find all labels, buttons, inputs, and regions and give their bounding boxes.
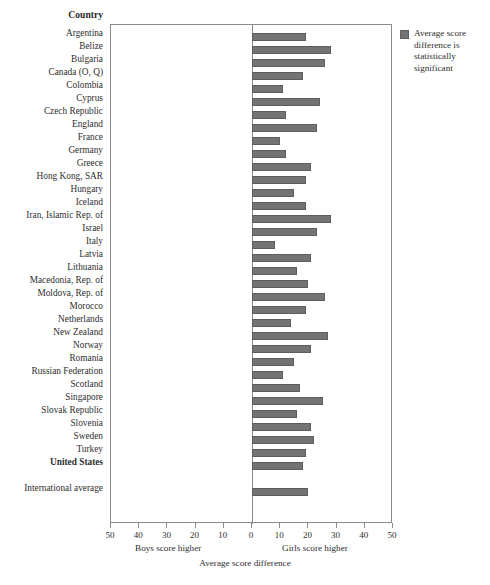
country-label: Singapore bbox=[65, 393, 103, 402]
bar bbox=[252, 72, 303, 81]
legend-swatch-significant bbox=[400, 30, 409, 39]
country-label: Macedonia, Rep. of bbox=[30, 276, 103, 285]
bar bbox=[252, 124, 317, 133]
boys-score-higher-caption: Boys score higher bbox=[135, 543, 201, 553]
bar bbox=[252, 410, 297, 419]
bar bbox=[252, 85, 283, 94]
x-axis-tick bbox=[336, 523, 337, 528]
x-axis-title: Average score difference bbox=[0, 558, 490, 568]
country-label: Iran, Islamic Rep. of bbox=[26, 211, 103, 220]
country-column-header: Country bbox=[68, 10, 103, 20]
x-axis-tick-label: 50 bbox=[98, 530, 122, 540]
bar bbox=[252, 488, 308, 497]
country-label: Canada (O, Q) bbox=[49, 68, 103, 77]
country-label: Hungary bbox=[70, 185, 103, 194]
country-label: United States bbox=[50, 458, 103, 467]
x-axis-tick-label: 30 bbox=[324, 530, 348, 540]
country-label: International average bbox=[24, 484, 103, 493]
x-axis-tick-label: 40 bbox=[126, 530, 150, 540]
country-label: Sweden bbox=[74, 432, 103, 441]
bar bbox=[252, 59, 325, 68]
x-axis-tick-label: 30 bbox=[154, 530, 178, 540]
country-label: Turkey bbox=[76, 445, 103, 454]
x-axis-tick bbox=[251, 523, 252, 528]
bar bbox=[252, 423, 311, 432]
country-label: Argentina bbox=[66, 29, 103, 38]
plot-area bbox=[110, 24, 392, 523]
bar bbox=[252, 215, 331, 224]
x-axis-tick-label: 10 bbox=[267, 530, 291, 540]
bar bbox=[252, 241, 275, 250]
country-label: Greece bbox=[77, 159, 103, 168]
x-axis-tick-label: 40 bbox=[352, 530, 376, 540]
country-label: Hong Kong, SAR bbox=[37, 172, 103, 181]
bar bbox=[252, 163, 311, 172]
x-axis-tick bbox=[279, 523, 280, 528]
x-axis-tick bbox=[392, 523, 393, 528]
chart-root: Country ArgentinaBelizeBulgariaCanada (O… bbox=[0, 0, 490, 585]
x-axis-tick-label: 0 bbox=[239, 530, 263, 540]
bar bbox=[252, 202, 306, 211]
bar bbox=[252, 176, 306, 185]
country-label: Moldova, Rep. of bbox=[37, 289, 103, 298]
country-label: New Zealand bbox=[53, 328, 103, 337]
bar bbox=[252, 358, 294, 367]
x-axis-tick bbox=[364, 523, 365, 528]
bar bbox=[252, 397, 323, 406]
bar bbox=[252, 46, 331, 55]
country-label: Iceland bbox=[76, 198, 103, 207]
country-label: Netherlands bbox=[58, 315, 103, 324]
girls-score-higher-caption: Girls score higher bbox=[282, 543, 348, 553]
bar bbox=[252, 306, 306, 315]
country-label: Slovak Republic bbox=[41, 406, 103, 415]
bar bbox=[252, 371, 283, 380]
legend-label-significant: Average score difference is statisticall… bbox=[414, 28, 488, 74]
x-axis-tick-label: 20 bbox=[295, 530, 319, 540]
bar bbox=[252, 345, 311, 354]
x-axis-tick-label: 50 bbox=[380, 530, 404, 540]
country-label: Israel bbox=[82, 224, 103, 233]
bar bbox=[252, 189, 294, 198]
bar bbox=[252, 150, 286, 159]
country-label: Norway bbox=[73, 341, 103, 350]
bar bbox=[252, 449, 306, 458]
x-axis-tick bbox=[307, 523, 308, 528]
country-label: Czech Republic bbox=[44, 107, 103, 116]
bar bbox=[252, 98, 320, 107]
country-label: Lithuania bbox=[67, 263, 103, 272]
bar bbox=[252, 267, 297, 276]
country-label: Italy bbox=[86, 237, 103, 246]
x-axis-tick bbox=[195, 523, 196, 528]
x-axis-tick bbox=[110, 523, 111, 528]
bar bbox=[252, 293, 325, 302]
country-label: Russian Federation bbox=[31, 367, 103, 376]
country-label: England bbox=[72, 120, 103, 129]
x-axis-tick-label: 10 bbox=[211, 530, 235, 540]
country-label: Belize bbox=[79, 42, 103, 51]
country-label: Colombia bbox=[66, 81, 103, 90]
bar bbox=[252, 228, 317, 237]
x-axis-tick-label: 20 bbox=[183, 530, 207, 540]
country-label: France bbox=[78, 133, 103, 142]
bar bbox=[252, 254, 311, 263]
bar bbox=[252, 33, 306, 42]
bar bbox=[252, 462, 303, 471]
country-label: Slovenia bbox=[70, 419, 103, 428]
country-label: Bulgaria bbox=[71, 55, 103, 64]
x-axis-tick bbox=[166, 523, 167, 528]
country-label: Scotland bbox=[70, 380, 103, 389]
x-axis-tick bbox=[138, 523, 139, 528]
bar bbox=[252, 111, 286, 120]
x-axis-tick bbox=[223, 523, 224, 528]
bar bbox=[252, 319, 291, 328]
country-label: Germany bbox=[68, 146, 103, 155]
bar bbox=[252, 332, 328, 341]
bar bbox=[252, 280, 308, 289]
country-label: Latvia bbox=[79, 250, 103, 259]
country-label: Romania bbox=[69, 354, 103, 363]
country-label: Morocco bbox=[69, 302, 103, 311]
bar bbox=[252, 137, 280, 146]
country-label: Cyprus bbox=[76, 94, 103, 103]
bar bbox=[252, 384, 300, 393]
bar bbox=[252, 436, 314, 445]
